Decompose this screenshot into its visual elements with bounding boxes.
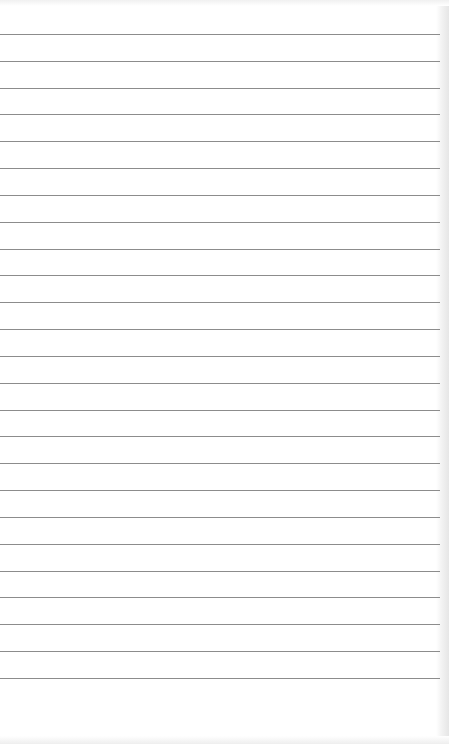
ruled-line <box>0 61 440 62</box>
paper-top-edge <box>0 0 449 6</box>
ruled-line <box>0 624 440 625</box>
ruled-line <box>0 114 440 115</box>
ruled-line <box>0 222 440 223</box>
ruled-line <box>0 302 440 303</box>
ruled-line <box>0 678 440 679</box>
ruled-line <box>0 651 440 652</box>
ruled-line <box>0 195 440 196</box>
paper-bottom-edge <box>0 736 449 744</box>
ruled-line <box>0 34 440 35</box>
ruled-line <box>0 597 440 598</box>
ruled-line <box>0 275 440 276</box>
lined-paper <box>0 0 449 744</box>
ruled-line <box>0 88 440 89</box>
ruled-line <box>0 329 440 330</box>
ruled-line <box>0 436 440 437</box>
ruled-line <box>0 141 440 142</box>
ruled-line <box>0 356 440 357</box>
ruled-line <box>0 249 440 250</box>
ruled-line <box>0 410 440 411</box>
ruled-line <box>0 168 440 169</box>
ruled-line <box>0 571 440 572</box>
ruled-line <box>0 544 440 545</box>
ruled-line <box>0 463 440 464</box>
ruled-line <box>0 517 440 518</box>
ruled-line <box>0 383 440 384</box>
ruled-line <box>0 490 440 491</box>
